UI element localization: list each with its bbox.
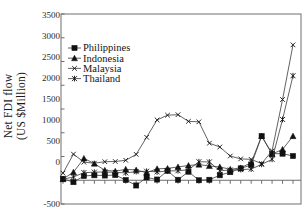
plot-area: PhilippinesIndonesiaMalaysiaThailand [0,0,308,212]
legend-item-thailand: Thailand [68,73,121,84]
legend-label: Thailand [83,73,121,84]
chart-figure: Net FDI flow (US $Million) 3500 3000 250… [0,0,308,212]
chart-legend: PhilippinesIndonesiaMalaysiaThailand [68,42,130,84]
